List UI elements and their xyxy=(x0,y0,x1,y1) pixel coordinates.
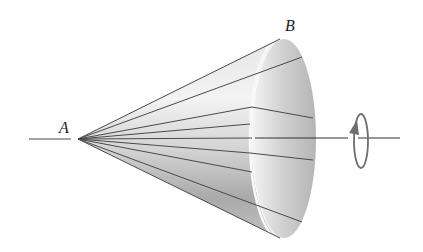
label-apex-a: A xyxy=(58,119,69,136)
rotation-arrow-icon xyxy=(349,114,368,168)
cone-diagram: A B xyxy=(0,0,423,252)
label-rim-b: B xyxy=(285,17,295,34)
